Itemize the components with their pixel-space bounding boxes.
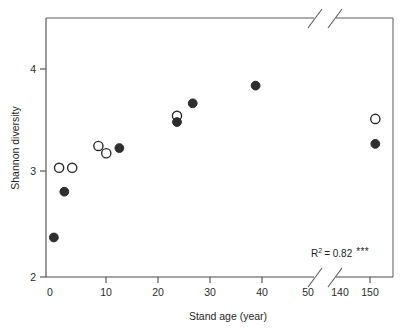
r-exponent: 2 xyxy=(318,247,322,254)
y-tick-label-4: 4 xyxy=(30,63,36,75)
y-tick-label-3: 3 xyxy=(30,165,36,177)
r-symbol: R xyxy=(311,248,318,259)
r-value: = 0.82 xyxy=(324,248,353,259)
y-axis-ticks xyxy=(40,69,46,277)
data-point-filled xyxy=(60,187,69,196)
x-tick-label-50: 50 xyxy=(302,286,314,298)
y-axis-tick-labels: 2 3 4 xyxy=(30,63,36,283)
scatter-plot-figure: 2 3 4 0 10 20 30 40 50 140 150 Stand age… xyxy=(0,0,407,330)
significance-stars: *** xyxy=(356,246,369,257)
x-tick-label-40: 40 xyxy=(256,286,268,298)
data-point-open xyxy=(94,141,103,150)
x-tick-label-140: 140 xyxy=(331,286,349,298)
data-point-open xyxy=(371,114,380,123)
x-axis-tick-labels: 0 10 20 30 40 50 140 150 xyxy=(47,286,379,298)
x-axis-title: Stand age (year) xyxy=(189,310,267,322)
r-squared-text: R2= 0.82*** xyxy=(311,246,369,259)
x-axis-ticks xyxy=(106,277,370,283)
x-tick-label-150: 150 xyxy=(361,286,379,298)
plot-canvas: 2 3 4 0 10 20 30 40 50 140 150 Stand age… xyxy=(0,0,407,330)
data-point-filled xyxy=(251,81,260,90)
data-point-filled xyxy=(371,139,380,148)
x-tick-label-20: 20 xyxy=(152,286,164,298)
data-point-filled xyxy=(49,233,58,242)
x-tick-label-10: 10 xyxy=(100,286,112,298)
data-point-filled xyxy=(115,144,124,153)
data-point-filled xyxy=(188,99,197,108)
r-squared-annotation: R2= 0.82*** xyxy=(311,246,369,259)
y-axis-title: Shannon diversity xyxy=(9,106,21,190)
y-tick-label-2: 2 xyxy=(30,271,36,283)
axis-break-marks xyxy=(308,9,342,287)
data-point-open xyxy=(55,163,64,172)
data-point-open xyxy=(102,149,111,158)
data-point-open xyxy=(68,163,77,172)
x-tick-label-30: 30 xyxy=(204,286,216,298)
data-markers xyxy=(49,81,379,242)
data-point-filled xyxy=(173,118,182,127)
x-tick-label-0: 0 xyxy=(47,286,53,298)
